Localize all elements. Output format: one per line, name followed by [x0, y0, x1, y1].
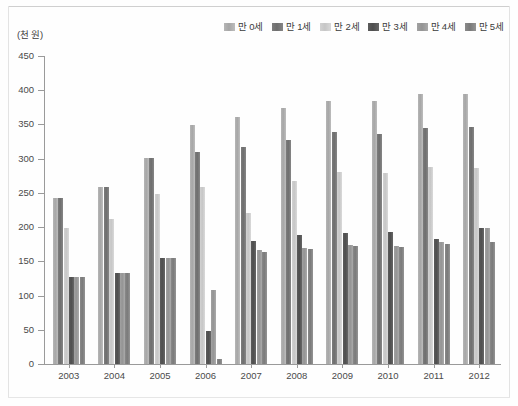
bar-2011-series-2: [428, 167, 433, 364]
bar-2010-series-5: [399, 247, 404, 364]
bar-2009-series-0: [326, 101, 331, 364]
x-tick-label-2003: 2003: [49, 370, 89, 381]
x-tick-mark-2006: [206, 364, 207, 368]
x-tick-mark-2009: [342, 364, 343, 368]
bar-2003-series-1: [58, 198, 63, 364]
x-tick-mark-2005: [160, 364, 161, 368]
bar-2003-series-0: [53, 198, 58, 364]
x-tick-mark-2008: [297, 364, 298, 368]
bar-2004-series-3: [115, 273, 120, 364]
y-tick-label-200: 200: [0, 221, 34, 232]
bar-2009-series-1: [332, 132, 337, 364]
y-tick-label-300: 300: [0, 153, 34, 164]
bar-2009-series-5: [353, 246, 358, 364]
figure-border-right: [509, 6, 510, 398]
bar-2007-series-3: [251, 241, 256, 364]
bar-2003-series-2: [64, 228, 69, 364]
x-tick-mark-2011: [434, 364, 435, 368]
x-tick-label-2011: 2011: [414, 370, 454, 381]
x-tick-label-2009: 2009: [322, 370, 362, 381]
bar-2012-series-3: [479, 228, 484, 364]
bar-2004-series-2: [109, 219, 114, 364]
bar-2005-series-0: [144, 158, 149, 364]
bar-2006-series-2: [200, 187, 205, 364]
figure-border-top: [8, 6, 510, 7]
bar-2007-series-5: [262, 252, 267, 364]
y-tick-mark-0: [38, 364, 44, 365]
figure-border-left: [8, 6, 9, 398]
x-tick-mark-2012: [479, 364, 480, 368]
bar-2007-series-1: [241, 147, 246, 364]
bar-2007-series-0: [235, 117, 240, 364]
bar-2010-series-0: [372, 101, 377, 364]
bar-2011-series-4: [439, 242, 444, 364]
bar-2005-series-2: [155, 194, 160, 364]
bar-2006-series-5: [217, 359, 222, 364]
legend-item-3: 만 3세: [368, 22, 407, 32]
bar-2012-series-0: [463, 94, 468, 364]
bar-2006-series-0: [190, 125, 195, 364]
chart-legend: 만 0세만 1세만 2세만 3세만 4세만 5세: [224, 20, 510, 34]
bar-2010-series-1: [377, 134, 382, 364]
y-tick-label-150: 150: [0, 255, 34, 266]
y-axis-unit-label: (천 원): [17, 27, 43, 41]
bar-2008-series-1: [286, 140, 291, 364]
bar-2006-series-3: [206, 331, 211, 364]
bar-2007-series-4: [257, 250, 262, 364]
bar-2011-series-3: [434, 239, 439, 364]
x-tick-label-2005: 2005: [140, 370, 180, 381]
bar-2011-series-0: [418, 94, 423, 364]
x-tick-label-2008: 2008: [277, 370, 317, 381]
bar-2004-series-5: [125, 273, 130, 364]
y-tick-label-350: 350: [0, 118, 34, 129]
x-tick-label-2004: 2004: [94, 370, 134, 381]
legend-label-5: 만 5세: [479, 22, 504, 32]
bar-2012-series-5: [490, 242, 495, 365]
bar-group-2004: [98, 56, 130, 364]
bar-2009-series-2: [337, 172, 342, 364]
bar-2005-series-5: [171, 258, 176, 364]
bar-2004-series-1: [104, 187, 109, 364]
bar-group-2003: [53, 56, 85, 364]
bar-2009-series-4: [348, 245, 353, 364]
bar-2007-series-2: [246, 213, 251, 364]
bar-2010-series-4: [394, 246, 399, 364]
x-tick-mark-2004: [114, 364, 115, 368]
bar-2005-series-3: [160, 258, 165, 364]
bar-2006-series-4: [211, 290, 216, 364]
bar-2005-series-1: [149, 158, 154, 364]
bar-2008-series-4: [302, 248, 307, 364]
bar-2011-series-5: [445, 244, 450, 364]
x-tick-label-2007: 2007: [231, 370, 271, 381]
bar-2004-series-0: [98, 187, 103, 364]
chart-figure: (천 원) 만 0세만 1세만 2세만 3세만 4세만 5세 050100150…: [0, 0, 518, 406]
y-tick-label-250: 250: [0, 187, 34, 198]
bar-2003-series-4: [74, 277, 79, 364]
bar-group-2012: [463, 56, 495, 364]
y-tick-label-100: 100: [0, 290, 34, 301]
legend-swatch-icon-3: [368, 23, 379, 31]
y-tick-label-0: 0: [0, 358, 34, 369]
legend-label-1: 만 1세: [286, 22, 311, 32]
legend-swatch-icon-0: [224, 23, 235, 31]
legend-label-3: 만 3세: [382, 22, 407, 32]
x-axis-line: [44, 364, 501, 365]
y-tick-label-400: 400: [0, 84, 34, 95]
legend-swatch-icon-2: [320, 23, 331, 31]
legend-item-2: 만 2세: [320, 22, 359, 32]
x-tick-label-2010: 2010: [368, 370, 408, 381]
bar-2004-series-4: [120, 273, 125, 364]
bar-group-2009: [326, 56, 358, 364]
x-tick-label-2006: 2006: [186, 370, 226, 381]
y-tick-label-450: 450: [0, 50, 34, 61]
legend-swatch-icon-1: [272, 23, 283, 31]
bar-2008-series-5: [308, 249, 313, 364]
bar-2010-series-2: [383, 173, 388, 364]
legend-label-4: 만 4세: [431, 22, 456, 32]
legend-label-0: 만 0세: [238, 22, 263, 32]
legend-item-0: 만 0세: [224, 22, 263, 32]
bar-2012-series-4: [485, 228, 490, 364]
bar-2011-series-1: [423, 128, 428, 364]
bar-2006-series-1: [195, 152, 200, 364]
bar-group-2006: [190, 56, 222, 364]
